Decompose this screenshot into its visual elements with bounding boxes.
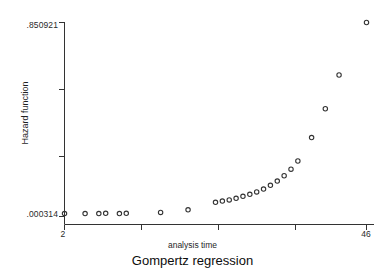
data-point [337, 73, 341, 77]
data-point [103, 211, 107, 215]
gompertz-hazard-chart: .850921 .000314 2 46 Hazard function ana… [0, 0, 385, 277]
data-point [268, 183, 272, 187]
data-point [275, 179, 279, 183]
data-point [124, 211, 128, 215]
data-point [254, 190, 258, 194]
data-point [241, 194, 245, 198]
data-point [261, 187, 265, 191]
data-point [309, 135, 313, 139]
y-axis-tick-label-top: .850921 [12, 20, 58, 30]
data-point [83, 211, 87, 215]
axes [59, 22, 374, 230]
x-axis-tick-label-left: 2 [56, 229, 70, 239]
data-point [158, 210, 162, 214]
data-point [186, 208, 190, 212]
data-point [289, 167, 293, 171]
data-point [234, 196, 238, 200]
data-point [117, 211, 121, 215]
data-point [97, 211, 101, 215]
y-axis-title: Hazard function [20, 58, 30, 168]
chart-caption: Gompertz regression [0, 253, 385, 268]
data-point [296, 159, 300, 163]
data-point [213, 200, 217, 204]
data-point [364, 20, 368, 24]
data-point [248, 192, 252, 196]
data-point [220, 199, 224, 203]
x-axis-tick-label-right: 46 [358, 229, 374, 239]
data-point [282, 174, 286, 178]
data-point [323, 107, 327, 111]
data-point-group [62, 20, 368, 215]
x-axis-title: analysis time [0, 240, 385, 250]
data-point [227, 198, 231, 202]
y-axis-tick-label-bottom: .000314 [12, 209, 58, 219]
